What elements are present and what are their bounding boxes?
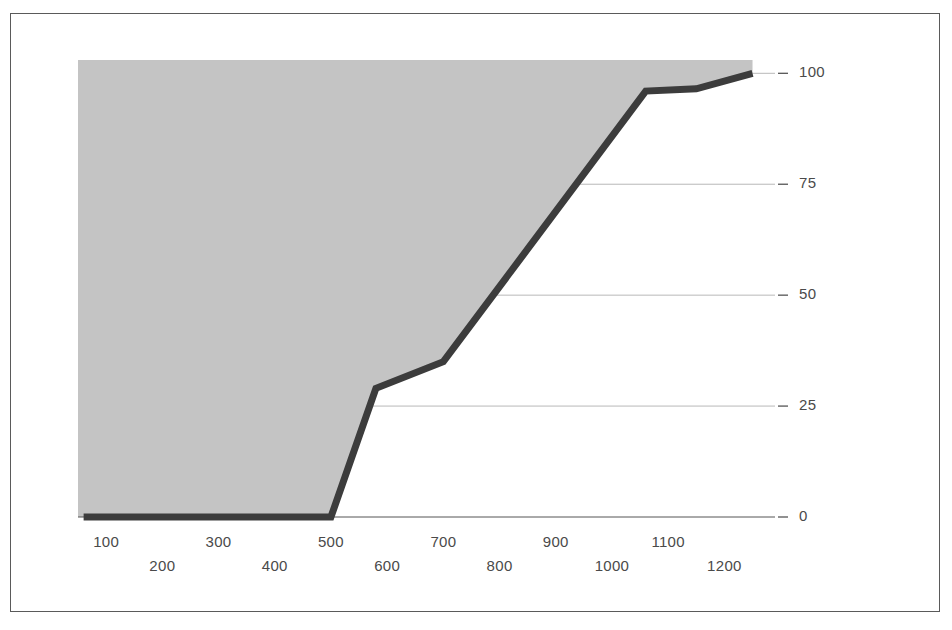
x-axis-label-1100: 1100: [651, 533, 684, 550]
axis-tick-marks: [778, 73, 788, 517]
series-area-fill: [78, 60, 753, 517]
x-axis-label-500: 500: [318, 533, 344, 550]
x-axis-label-800: 800: [487, 557, 513, 574]
chart-page: 0255075100 10020030040050060070080090010…: [0, 0, 952, 630]
y-axis-label-25: 25: [799, 396, 816, 413]
x-axis-label-200: 200: [149, 557, 175, 574]
x-axis-label-100: 100: [93, 533, 119, 550]
y-axis-label-50: 50: [799, 285, 816, 302]
x-axis-label-1200: 1200: [707, 557, 742, 574]
cumulative-area-chart: 0255075100 10020030040050060070080090010…: [0, 0, 952, 630]
x-axis-label-1000: 1000: [595, 557, 630, 574]
x-axis-label-900: 900: [543, 533, 569, 550]
x-axis-label-700: 700: [430, 533, 456, 550]
x-axis-label-300: 300: [206, 533, 232, 550]
area-fill: [78, 60, 753, 517]
plot-canvas: [0, 0, 952, 630]
x-axis-label-400: 400: [262, 557, 288, 574]
y-axis-label-75: 75: [799, 174, 816, 191]
y-axis-label-0: 0: [799, 507, 808, 524]
x-axis-label-600: 600: [374, 557, 400, 574]
y-axis-label-100: 100: [799, 63, 825, 80]
